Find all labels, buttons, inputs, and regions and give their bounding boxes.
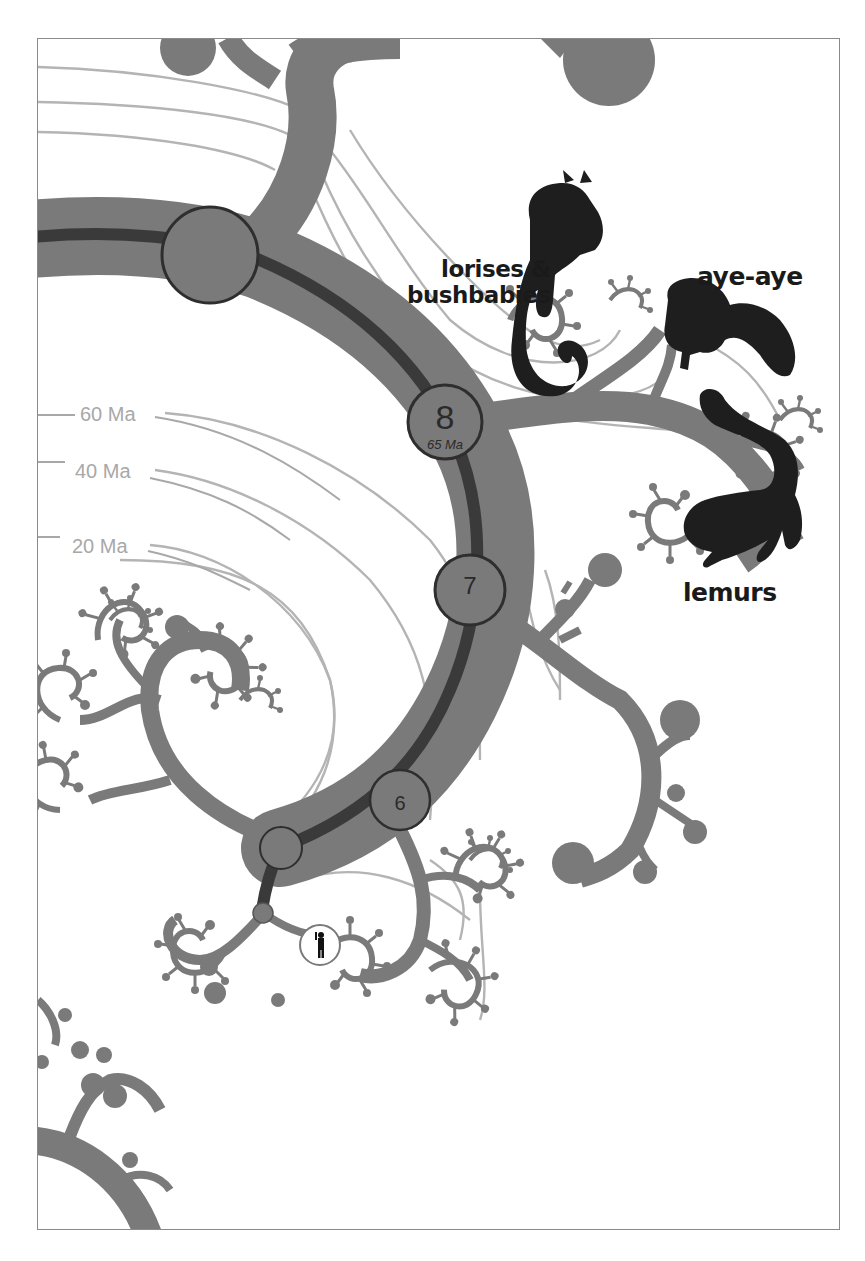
time-ticks bbox=[38, 415, 340, 590]
time-label-20: 20 Ma bbox=[72, 535, 128, 558]
label-line: lorises & bbox=[407, 256, 551, 282]
time-label-60: 60 Ma bbox=[80, 403, 136, 426]
label-aye-aye: aye-aye bbox=[697, 262, 803, 291]
terminal-node bbox=[160, 20, 216, 76]
terminal-node bbox=[563, 14, 655, 106]
node-5 bbox=[260, 827, 302, 869]
tree-canvas bbox=[0, 0, 865, 1261]
node-7-label: 7 bbox=[455, 572, 485, 600]
label-lorises-bushbabies: lorises & bushbabies bbox=[407, 256, 551, 308]
label-line: bushbabies bbox=[407, 282, 551, 308]
node-8-label: 8 bbox=[415, 400, 475, 434]
phylogenetic-tree-figure: lorises & bushbabies aye-aye lemurs 60 M… bbox=[0, 0, 865, 1261]
node-6-label: 6 bbox=[388, 792, 412, 815]
node-4 bbox=[253, 903, 273, 923]
aye-aye-silhouette bbox=[664, 278, 795, 376]
bottom-left-branches bbox=[20, 1000, 170, 1240]
left-fractal-cluster bbox=[80, 620, 280, 840]
label-lemurs: lemurs bbox=[683, 578, 777, 607]
node-8-age: 65 Ma bbox=[405, 437, 485, 452]
time-label-40: 40 Ma bbox=[75, 460, 131, 483]
node-9 bbox=[162, 207, 258, 303]
